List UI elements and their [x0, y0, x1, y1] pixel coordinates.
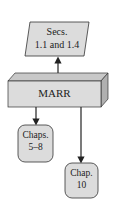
center-node-label: MARR [8, 87, 101, 101]
left-node-label: Chaps. 5–8 [18, 130, 53, 154]
right-node-label: Chap. 10 [65, 168, 98, 192]
top-node-line2: 1.1 and 1.4 [27, 39, 87, 52]
right-node-line2: 10 [65, 180, 98, 192]
left-node-line1: Chaps. [18, 130, 53, 142]
left-node-line2: 5–8 [18, 142, 53, 154]
center-node-top-face [8, 73, 108, 81]
right-node-line1: Chap. [65, 168, 98, 180]
top-node-label: Secs. 1.1 and 1.4 [27, 26, 87, 51]
top-node-line1: Secs. [27, 26, 87, 39]
